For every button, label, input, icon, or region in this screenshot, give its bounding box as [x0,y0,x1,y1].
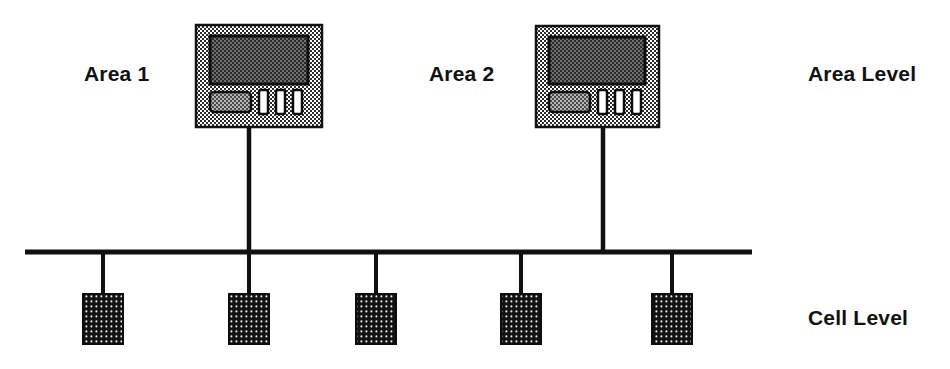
cell-stub-lines [103,252,672,296]
cell-nodes [83,294,692,344]
label-area-2: Area 2 [429,63,494,84]
terminal-area-2-screen [549,37,645,84]
terminal-area-1-slot-2-icon [276,90,285,114]
network-hierarchy-diagram: Area 1 Area 2 Area Level Cell Level [0,0,950,369]
terminal-area-2-slot-2-icon [615,90,624,114]
terminal-area-1 [196,25,322,254]
terminal-area-2 [536,26,659,254]
label-area-level: Area Level [808,63,916,84]
terminal-area-2-wide-button-icon [549,92,590,112]
cell-node-4 [501,294,541,344]
terminal-area-1-slot-3-icon [293,90,302,114]
terminal-area-1-screen [210,36,308,84]
cell-node-5 [652,294,692,344]
cell-node-1 [83,294,123,344]
label-cell-level: Cell Level [808,307,908,328]
terminal-area-2-slot-3-icon [632,90,641,114]
terminal-area-1-wide-button-icon [210,92,251,112]
cell-node-2 [229,294,269,344]
cell-node-3 [356,294,396,344]
terminal-area-2-slot-1-icon [598,90,607,114]
label-area-1: Area 1 [84,63,149,84]
terminal-area-1-slot-1-icon [259,90,268,114]
